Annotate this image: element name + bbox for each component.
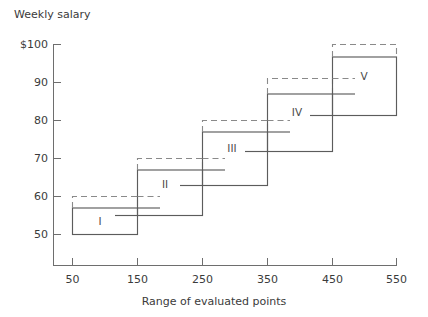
zone-label-5: V [360, 70, 368, 82]
zone-solid-box-5 [333, 57, 397, 116]
zone-solid-box-2 [138, 170, 203, 216]
x-tick-label-50: 50 [66, 273, 80, 286]
zone-solid-box-1 [73, 208, 138, 235]
chart-title: Weekly salary [14, 8, 91, 21]
zone-dashed-cap-2 [138, 159, 203, 171]
x-axis-title: Range of evaluated points [142, 295, 287, 308]
wage-structure-chart: Weekly salary $100 90 80 70 60 50 50 150… [0, 0, 428, 317]
y-tick-label-100: $100 [20, 38, 48, 51]
zone-group-5: V [333, 45, 397, 116]
zone-solid-box-4 [268, 94, 333, 152]
x-tick-label-150: 150 [127, 273, 148, 286]
y-tick-label-70: 70 [34, 152, 48, 165]
zone-dashed-cap-3 [203, 121, 268, 133]
zone-solid-box-3 [203, 132, 268, 186]
zone-label-1: I [98, 215, 101, 227]
x-tick-label-550: 550 [386, 273, 407, 286]
y-tick-label-90: 90 [34, 76, 48, 89]
x-tick-label-350: 350 [257, 273, 278, 286]
zone-group-2: II [138, 159, 203, 216]
zone-group-3: III [203, 121, 268, 186]
y-tick-label-60: 60 [34, 190, 48, 203]
zone-label-3: III [227, 142, 236, 154]
zone-label-4: IV [292, 106, 303, 118]
zone-label-2: II [162, 178, 168, 190]
zone-dashed-cap-4 [268, 79, 333, 95]
x-tick-label-450: 450 [322, 273, 343, 286]
y-tick-label-80: 80 [34, 114, 48, 127]
zone-dashed-cap-5 [333, 45, 397, 58]
y-tick-label-50: 50 [34, 228, 48, 241]
x-tick-label-250: 250 [192, 273, 213, 286]
zone-dashed-cap-1 [73, 197, 138, 209]
chart-page: Weekly salary $100 90 80 70 60 50 50 150… [0, 0, 428, 317]
